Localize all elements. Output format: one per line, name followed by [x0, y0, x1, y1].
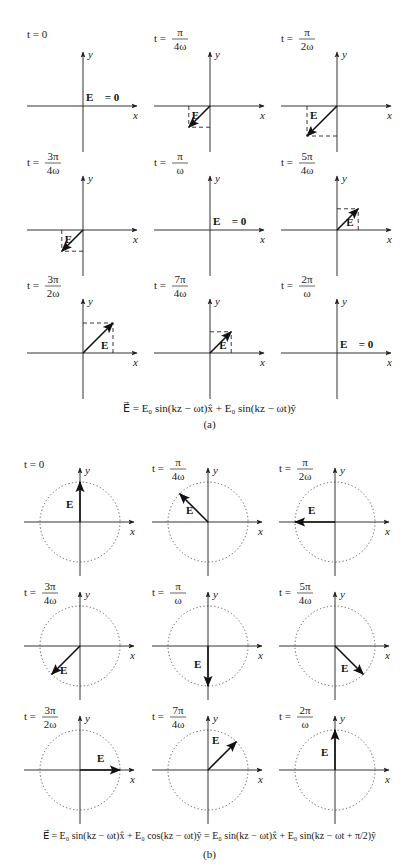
field-vector-label: E⃗	[186, 504, 202, 516]
y-axis-label: y	[339, 464, 345, 476]
panel-b-8: xyt =7π4ωE⃗	[152, 704, 263, 824]
time-label: t =	[24, 710, 36, 722]
field-vector-label: E⃗	[346, 216, 362, 228]
y-axis-label: y	[84, 588, 90, 600]
time-label: t =	[281, 32, 293, 44]
panel-b-6: xyt =5π4ωE⃗	[279, 580, 390, 700]
time-label: t =	[27, 279, 39, 291]
field-vector-label: E⃗	[212, 734, 228, 746]
x-axis-label: x	[386, 356, 392, 368]
y-axis-label: y	[87, 295, 93, 307]
time-denominator: 4ω	[299, 594, 312, 606]
polarization-figure: xyt = 0E⃗ = 0xyt =π4ωE⃗xyt =π2ωE⃗xyt =3π…	[0, 0, 419, 866]
field-vector-label: E⃗	[60, 664, 76, 676]
panel-a-7: xyt =3π2ωE⃗	[27, 273, 138, 399]
time-numerator: 7π	[172, 704, 184, 716]
time-denominator: 4ω	[174, 287, 187, 299]
y-axis-label: y	[214, 48, 220, 60]
x-axis-label: x	[132, 109, 138, 121]
panel-b-7: xyt =3π2ωE⃗	[24, 704, 135, 824]
x-axis-label: x	[259, 356, 265, 368]
x-axis-label: x	[384, 525, 390, 537]
time-denominator: 2ω	[44, 718, 57, 730]
time-denominator: ω	[303, 287, 310, 299]
linear-polarization-panels: xyt = 0E⃗ = 0xyt =π4ωE⃗xyt =π2ωE⃗xyt =3π…	[27, 26, 392, 399]
zero-field-label: E⃗ = 0	[340, 338, 374, 350]
time-numerator: π	[175, 580, 181, 592]
y-axis-label: y	[341, 295, 347, 307]
time-label: t = 0	[27, 28, 48, 40]
x-axis-label: x	[257, 525, 263, 537]
y-axis-label: y	[84, 464, 90, 476]
panel-a-2: xyt =π4ωE⃗	[154, 26, 265, 152]
panel-b-1: xyt = 0E⃗	[24, 458, 135, 576]
time-label: t =	[27, 156, 39, 168]
time-label: t =	[154, 279, 166, 291]
time-label: t =	[281, 156, 293, 168]
time-denominator: 4ω	[47, 164, 60, 176]
panel-b-3: xyt =π2ωE⃗	[279, 456, 390, 576]
field-vector-label: E⃗	[192, 109, 208, 121]
y-axis-label: y	[87, 172, 93, 184]
time-denominator: 2ω	[301, 40, 314, 52]
time-numerator: π	[177, 150, 183, 162]
panel-a-4: xyt =3π4ωE⃗	[27, 150, 138, 276]
time-numerator: π	[304, 26, 310, 38]
y-axis-label: y	[84, 712, 90, 724]
time-label: t =	[281, 279, 293, 291]
x-axis-label: x	[384, 649, 390, 661]
y-axis-label: y	[214, 295, 220, 307]
time-denominator: ω	[176, 164, 183, 176]
panel-b-2: xyt =π4ωE⃗	[152, 456, 263, 576]
field-vector-label: E⃗	[65, 233, 81, 245]
time-numerator: 2π	[299, 704, 311, 716]
field-vector-label: E⃗	[308, 504, 324, 516]
x-axis-label: x	[259, 233, 265, 245]
time-label: t =	[152, 710, 164, 722]
time-label: t =	[279, 586, 291, 598]
zero-field-label: E⃗ = 0	[213, 215, 247, 227]
y-axis-label: y	[212, 464, 218, 476]
y-axis-label: y	[212, 588, 218, 600]
y-axis-label: y	[214, 172, 220, 184]
zero-field-label: E⃗ = 0	[86, 91, 120, 103]
time-denominator: 4ω	[172, 470, 185, 482]
time-numerator: 3π	[44, 704, 56, 716]
field-vector-label: E⃗	[341, 662, 357, 674]
y-axis-label: y	[339, 588, 345, 600]
time-denominator: 4ω	[44, 594, 57, 606]
panel-b-9: xyt =2πωE⃗	[279, 704, 390, 824]
time-numerator: 3π	[44, 580, 56, 592]
x-axis-label: x	[257, 773, 263, 785]
time-denominator: ω	[301, 718, 308, 730]
x-axis-label: x	[386, 233, 392, 245]
equation-a: E⃗ = E₀ sin(kz − ωt)x̂ + E₀ sin(kz − ωt)…	[0, 402, 419, 415]
field-vector-label: E⃗	[321, 746, 337, 758]
x-axis-label: x	[129, 525, 135, 537]
time-numerator: 2π	[301, 273, 313, 285]
field-vector-label: E⃗	[310, 109, 326, 121]
field-vector-label: E⃗	[219, 339, 235, 351]
x-axis-label: x	[129, 649, 135, 661]
time-numerator: 3π	[47, 150, 59, 162]
time-denominator: 2ω	[47, 287, 60, 299]
time-numerator: π	[302, 456, 308, 468]
time-numerator: 5π	[301, 150, 313, 162]
time-numerator: 3π	[47, 273, 59, 285]
time-label: t =	[152, 586, 164, 598]
time-label: t =	[152, 462, 164, 474]
field-vector-label: E⃗	[194, 658, 210, 670]
panel-b-4: xyt =3π4ωE⃗	[24, 580, 135, 700]
caption-b: (b)	[0, 848, 419, 860]
panel-a-3: xyt =π2ωE⃗	[281, 26, 392, 152]
time-denominator: ω	[174, 594, 181, 606]
field-vector-label: E⃗	[97, 752, 113, 764]
x-axis-label: x	[259, 109, 265, 121]
panel-a-1: xyt = 0E⃗ = 0	[27, 28, 138, 152]
circular-polarization-panels: xyt = 0E⃗xyt =π4ωE⃗xyt =π2ωE⃗xyt =3π4ωE⃗…	[24, 456, 390, 824]
time-numerator: 5π	[299, 580, 311, 592]
panel-a-8: xyt =7π4ωE⃗	[154, 273, 265, 399]
panel-a-9: xyt =2πωE⃗ = 0	[281, 273, 392, 399]
x-axis-label: x	[132, 356, 138, 368]
time-denominator: 4ω	[174, 40, 187, 52]
